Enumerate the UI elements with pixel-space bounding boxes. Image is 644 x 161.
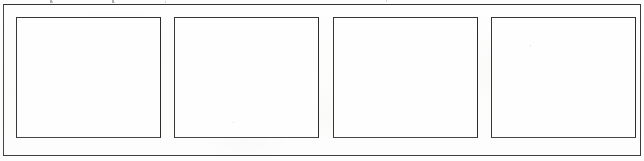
scan-speckle-b: [52, 1, 53, 3]
scan-speckle-a: [50, 0, 52, 3]
blank-box-1-content: [17, 18, 160, 137]
blank-box-2[interactable]: [174, 17, 319, 138]
blank-box-row: [16, 17, 636, 138]
blank-box-3[interactable]: [333, 17, 478, 138]
blank-box-3-content: [334, 18, 477, 137]
scan-speckle-f: [386, 0, 387, 2]
blank-box-4-content: [492, 18, 635, 137]
scan-speckle-c: [112, 0, 114, 3]
scan-speckle-d: [114, 2, 115, 3]
outer-border-frame: [3, 4, 641, 156]
scanned-page: [0, 0, 644, 161]
scan-speckle-e: [165, 1, 166, 3]
blank-box-1[interactable]: [16, 17, 161, 138]
blank-box-2-content: [175, 18, 318, 137]
blank-box-4[interactable]: [491, 17, 636, 138]
